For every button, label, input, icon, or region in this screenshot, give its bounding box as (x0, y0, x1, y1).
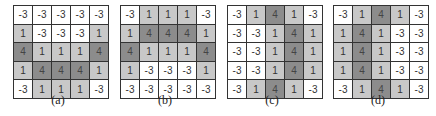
grid-cell: -3 (410, 6, 428, 24)
grid-cell: -3 (410, 62, 428, 80)
grid-cell: 1 (372, 25, 390, 43)
grid-cell: -3 (159, 62, 177, 80)
grid-cell: 4 (140, 25, 158, 43)
grid-cell: -3 (71, 6, 89, 24)
grid-cell: -3 (391, 25, 409, 43)
grid-cell: -3 (52, 6, 70, 24)
grid-cell: -3 (410, 43, 428, 61)
grid-cell: 4 (353, 25, 371, 43)
grid-cell: 4 (353, 43, 371, 61)
grid-cell: -3 (247, 62, 265, 80)
grid-cell: 1 (372, 62, 390, 80)
grid-cell: -3 (247, 25, 265, 43)
grid-cell: 4 (14, 43, 32, 61)
grid-cell: 4 (90, 43, 108, 61)
grid-cell: -3 (33, 25, 51, 43)
grid-cell: -3 (71, 25, 89, 43)
panel-label-d: (d) (331, 93, 425, 108)
grid-cell: 1 (334, 62, 352, 80)
grid-cell: 4 (353, 62, 371, 80)
grid-cell: 1 (304, 62, 322, 80)
grid-cell: 4 (159, 25, 177, 43)
grid-cell: 1 (121, 25, 139, 43)
grid-cell: 4 (197, 43, 215, 61)
grid-cell: 1 (178, 43, 196, 61)
grid-cell: 4 (285, 25, 303, 43)
grid-cell: 1 (90, 62, 108, 80)
kernel-grid-d: -3141-3141-3-3141-3-3141-3-3-3141-3 (333, 5, 429, 99)
grid-cell: 1 (304, 25, 322, 43)
grid-cell: 4 (372, 6, 390, 24)
grid-cell: -3 (14, 6, 32, 24)
grid-cell: 1 (285, 6, 303, 24)
grid-cell: -3 (121, 6, 139, 24)
grid-cell: 1 (14, 25, 32, 43)
grid-cell: 1 (71, 43, 89, 61)
grid-cell: -3 (247, 43, 265, 61)
kernel-grid-a: -3-3-3-3-31-3-3-314111414441-3111-3 (13, 5, 109, 99)
grid-cell: -3 (228, 43, 246, 61)
grid-cell: 1 (334, 25, 352, 43)
grid-cell: 1 (247, 6, 265, 24)
grid-cell: 1 (140, 43, 158, 61)
grid-cell: -3 (228, 6, 246, 24)
grid-cell: 1 (353, 6, 371, 24)
grid-cell: 1 (178, 6, 196, 24)
grid-cell: -3 (197, 6, 215, 24)
grid-cell: 4 (33, 62, 51, 80)
grid-cell: 4 (52, 62, 70, 80)
kernel-grid-b: -3111-314441411141-3-3-31-3-3-3-3-3 (120, 5, 216, 99)
grid-cell: 1 (334, 43, 352, 61)
grid-cell: 4 (178, 25, 196, 43)
grid-cell: 1 (52, 43, 70, 61)
panel-c: -3141-3-3-3141-3-3141-3-3141-3141-3 (227, 5, 317, 99)
panel-label-b: (b) (118, 93, 212, 108)
grid-cell: 4 (121, 43, 139, 61)
kernel-grid-c: -3141-3-3-3141-3-3141-3-3141-3141-3 (227, 5, 323, 99)
grid-cell: -3 (140, 62, 158, 80)
grid-cell: 1 (372, 43, 390, 61)
grid-cell: 4 (266, 6, 284, 24)
grid-cell: 1 (90, 25, 108, 43)
panel-a: -3-3-3-3-31-3-3-314111414441-3111-3 (13, 5, 103, 99)
grid-cell: 1 (197, 62, 215, 80)
grid-cell: 4 (285, 62, 303, 80)
grid-cell: -3 (90, 6, 108, 24)
grid-cell: -3 (391, 62, 409, 80)
grid-cell: 4 (285, 43, 303, 61)
grid-cell: 1 (159, 6, 177, 24)
grid-cell: -3 (334, 6, 352, 24)
grid-cell: 1 (197, 25, 215, 43)
grid-cell: 4 (71, 62, 89, 80)
panel-label-a: (a) (11, 93, 105, 108)
grid-cell: 1 (140, 6, 158, 24)
grid-cell: -3 (228, 25, 246, 43)
grid-cell: 1 (391, 6, 409, 24)
grid-cell: -3 (33, 6, 51, 24)
grid-cell: 1 (159, 43, 177, 61)
panel-d: -3141-3141-3-3141-3-3141-3-3-3141-3 (333, 5, 423, 99)
panel-label-c: (c) (225, 93, 319, 108)
grid-cell: -3 (178, 62, 196, 80)
grid-cell: 1 (266, 25, 284, 43)
grid-cell: -3 (391, 43, 409, 61)
grid-cell: 1 (33, 43, 51, 61)
grid-cell: -3 (410, 25, 428, 43)
grid-cell: 1 (266, 43, 284, 61)
grid-cell: -3 (304, 6, 322, 24)
grid-cell: -3 (52, 25, 70, 43)
grid-cell: 1 (266, 62, 284, 80)
panel-b: -3111-314441411141-3-3-31-3-3-3-3-3 (120, 5, 210, 99)
grid-cell: 1 (14, 62, 32, 80)
grid-cell: 1 (304, 43, 322, 61)
grid-cell: 1 (121, 62, 139, 80)
grid-cell: -3 (228, 62, 246, 80)
